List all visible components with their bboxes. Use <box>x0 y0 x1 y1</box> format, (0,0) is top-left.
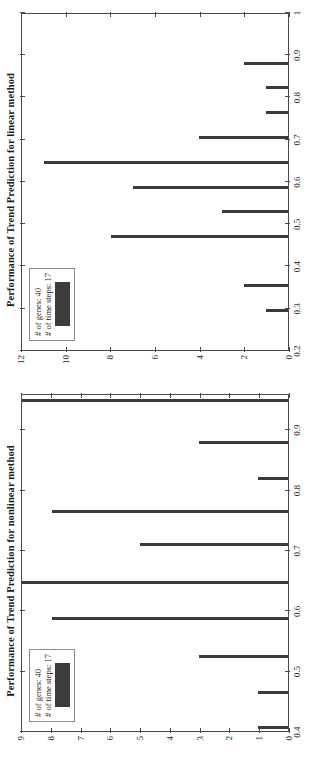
y-tick <box>110 12 111 17</box>
y-tick <box>259 728 260 733</box>
legend-linear: # of genes: 40 # of time steps: 17 <box>29 268 75 341</box>
bar <box>22 399 288 402</box>
x-tick-label: 0.6 <box>292 176 302 187</box>
legend-line-genes: # of genes: 40 <box>33 273 43 336</box>
y-tick <box>110 393 111 398</box>
y-tick-label: 3 <box>195 736 205 741</box>
y-tick <box>66 347 67 352</box>
y-tick <box>200 393 201 398</box>
y-tick <box>81 728 82 733</box>
x-tick-label: 0.9 <box>292 50 302 61</box>
x-tick <box>20 429 25 430</box>
legend-nonlinear: # of genes: 40 # of time steps: 17 <box>29 649 75 722</box>
x-tick-label: 1 <box>292 11 302 16</box>
y-tick <box>244 347 245 352</box>
chart-title-nonlinear: Performance of Trend Prediction for nonl… <box>3 384 19 758</box>
bar <box>266 309 288 312</box>
x-tick <box>285 308 290 309</box>
x-tick-label: 0.8 <box>292 92 302 103</box>
y-tick <box>110 728 111 733</box>
y-tick-label: 5 <box>135 736 145 741</box>
legend-text-linear: # of genes: 40 # of time steps: 17 <box>33 273 53 336</box>
bar <box>258 725 288 728</box>
y-tick <box>170 728 171 733</box>
x-tick-label: 0.4 <box>292 261 302 272</box>
y-tick-label: 9 <box>16 736 26 741</box>
y-tick <box>200 347 201 352</box>
bar <box>266 86 288 89</box>
y-tick-label: 12 <box>16 355 26 364</box>
bar <box>44 161 288 164</box>
x-tick <box>285 54 290 55</box>
y-tick-label: 8 <box>46 736 56 741</box>
rotated-chart-nonlinear: Performance of Trend Prediction for nonl… <box>3 384 313 758</box>
x-tick <box>285 139 290 140</box>
x-tick <box>285 489 290 490</box>
y-tick <box>21 12 22 17</box>
y-tick-label: 1 <box>254 736 264 741</box>
legend-line-timesteps: # of time steps: 17 <box>43 654 53 717</box>
bar <box>258 477 288 480</box>
legend-text-nonlinear: # of genes: 40 # of time steps: 17 <box>33 654 53 717</box>
x-tick <box>285 97 290 98</box>
bar <box>258 690 288 693</box>
x-tick-label: 0.7 <box>292 134 302 145</box>
x-tick <box>285 549 290 550</box>
bar <box>199 655 288 658</box>
x-tick <box>285 266 290 267</box>
x-tick-label: 0.9 <box>292 424 302 435</box>
y-tick-label: 6 <box>105 736 115 741</box>
legend-line-timesteps: # of time steps: 17 <box>43 273 53 336</box>
x-tick <box>20 266 25 267</box>
y-tick <box>200 12 201 17</box>
y-tick-label: 8 <box>105 355 115 360</box>
y-tick <box>259 393 260 398</box>
y-tick <box>21 393 22 398</box>
y-tick <box>21 347 22 352</box>
y-tick <box>51 393 52 398</box>
y-tick-label: 10 <box>61 355 71 364</box>
y-tick <box>155 347 156 352</box>
bar <box>22 581 288 584</box>
x-tick <box>285 429 290 430</box>
x-tick <box>285 181 290 182</box>
bar <box>140 543 288 546</box>
bar <box>111 235 288 238</box>
x-tick <box>20 223 25 224</box>
bar <box>52 510 288 513</box>
legend-line-genes: # of genes: 40 <box>33 654 43 717</box>
bar <box>244 62 288 65</box>
y-tick <box>110 347 111 352</box>
y-tick-label: 2 <box>224 736 234 741</box>
x-tick <box>285 223 290 224</box>
y-tick <box>200 728 201 733</box>
x-tick <box>20 308 25 309</box>
y-tick <box>289 728 290 733</box>
x-tick <box>20 489 25 490</box>
x-tick-label: 0.7 <box>292 545 302 556</box>
y-tick <box>170 393 171 398</box>
x-tick <box>20 610 25 611</box>
bar <box>52 616 288 619</box>
legend-swatch-icon <box>55 663 70 707</box>
x-tick <box>20 181 25 182</box>
y-tick <box>140 728 141 733</box>
y-tick <box>66 12 67 17</box>
y-tick <box>229 728 230 733</box>
plot-area-nonlinear: 0.40.50.60.70.80.90123456789 # of genes:… <box>21 394 289 732</box>
y-tick-label: 2 <box>239 355 249 360</box>
x-tick <box>20 139 25 140</box>
bar <box>266 111 288 114</box>
x-tick <box>20 97 25 98</box>
y-tick-label: 6 <box>150 355 160 360</box>
y-tick <box>21 728 22 733</box>
plot-area-linear: 0.20.30.40.50.60.70.80.91024681012 # of … <box>21 13 289 351</box>
y-tick <box>289 393 290 398</box>
x-tick <box>285 610 290 611</box>
y-tick <box>140 393 141 398</box>
x-tick-label: 0.5 <box>292 219 302 230</box>
x-tick-label: 0.5 <box>292 666 302 677</box>
y-tick-label: 0 <box>284 736 294 741</box>
y-tick <box>155 12 156 17</box>
y-tick <box>51 728 52 733</box>
